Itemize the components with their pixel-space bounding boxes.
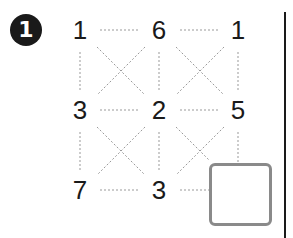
grid-cell-r1c1: 1	[65, 15, 95, 45]
answer-box[interactable]	[209, 163, 272, 226]
grid-cell-r3c1: 7	[65, 175, 95, 205]
grid-cell-r2c1: 3	[65, 95, 95, 125]
grid-cell-r3c2: 3	[144, 175, 174, 205]
grid-cell-r1c2: 6	[144, 15, 174, 45]
grid-cell-r2c3: 5	[223, 95, 253, 125]
grid-cell-r2c2: 2	[144, 95, 174, 125]
grid-cell-r1c3: 1	[223, 15, 253, 45]
vertical-divider	[284, 12, 286, 238]
